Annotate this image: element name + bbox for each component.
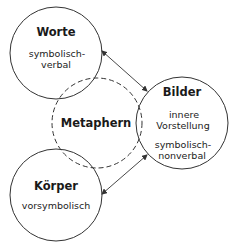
arrow-koerper-bilder <box>102 155 147 194</box>
bilder-desc-line2: Vorstellung <box>156 120 209 131</box>
arrow-worte-bilder <box>102 51 147 91</box>
koerper-circle <box>10 149 102 241</box>
bilder-desc-line4: nonverbal <box>158 150 206 161</box>
koerper-desc-line1: vorsymbolisch <box>22 200 90 211</box>
koerper-title: Körper <box>34 179 78 193</box>
bilder-title: Bilder <box>163 85 201 99</box>
metaphern-title: Metaphern <box>61 116 132 130</box>
bilder-desc-line1: innere <box>169 109 199 120</box>
worte-desc-line2: verbal <box>41 59 71 70</box>
worte-desc-line1: symbolisch- <box>29 48 86 59</box>
worte-title: Worte <box>36 25 75 39</box>
bilder-desc-line3: symbolisch- <box>155 139 212 150</box>
